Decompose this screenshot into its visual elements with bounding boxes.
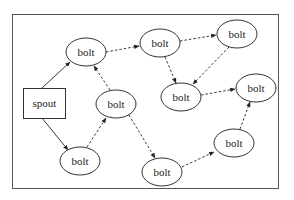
edge-b4-b5 [201,89,235,95]
bolt-label: bolt [71,155,88,167]
bolt-node: bolt [60,147,100,175]
bolt-label: bolt [107,98,124,110]
bolt-label: bolt [228,28,245,40]
bolt-label: bolt [153,166,170,178]
edge-b2-b3 [180,35,216,41]
spout-node: spout [24,89,66,119]
edge-spout-b1 [42,62,70,88]
bolt-label: bolt [247,82,264,94]
bolt-node: bolt [96,90,136,118]
spout-label: spout [33,97,57,109]
edge-b6-b8 [129,115,155,158]
edge-b1-b2 [106,46,139,52]
edge-b9-b5 [240,102,250,129]
bolt-node: bolt [140,29,180,57]
edge-b3-b4 [193,47,229,84]
topology-diagram: spout bolt bolt bolt bolt bolt bolt bolt… [0,0,294,200]
bolt-label: bolt [172,91,189,103]
bolt-node: bolt [214,129,254,157]
bolt-label: bolt [77,46,94,58]
bolt-label: bolt [151,37,168,49]
bolt-node: bolt [161,83,201,111]
bolt-node: bolt [142,158,182,186]
edge-spout-b7 [42,118,68,150]
edge-b7-b6 [87,118,106,147]
bolt-node: bolt [217,20,257,48]
edge-b8-b9 [182,152,214,167]
edge-b2-b4 [165,57,176,83]
bolt-node: bolt [66,38,106,66]
bolt-label: bolt [225,137,242,149]
edge-b6-b1 [94,66,110,90]
bolt-node: bolt [236,74,276,102]
